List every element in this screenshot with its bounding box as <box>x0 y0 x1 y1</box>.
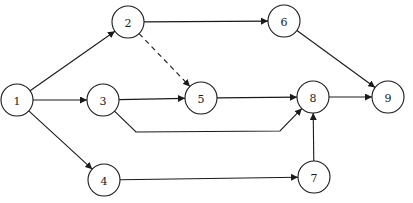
node-label: 7 <box>311 172 318 185</box>
node-label: 1 <box>14 95 21 108</box>
node-5: 5 <box>185 82 217 114</box>
node-2: 2 <box>112 6 144 38</box>
edge-7-to-8 <box>313 113 314 161</box>
edge-6-to-9 <box>297 30 375 87</box>
node-label: 9 <box>385 92 392 105</box>
node-label: 5 <box>198 93 205 106</box>
node-8: 8 <box>297 81 329 113</box>
node-label: 6 <box>281 16 288 29</box>
node-6: 6 <box>268 5 300 37</box>
node-3: 3 <box>87 84 119 116</box>
node-1: 1 <box>1 84 33 116</box>
edge-5-to-8 <box>217 97 297 98</box>
node-9: 9 <box>372 81 404 113</box>
edge-1-to-4 <box>29 111 92 169</box>
node-7: 7 <box>298 161 330 193</box>
node-label: 3 <box>100 95 107 108</box>
edge-2-to-5 <box>139 34 190 87</box>
node-label: 2 <box>125 17 132 30</box>
node-4: 4 <box>88 164 120 196</box>
edge-4-to-7 <box>120 177 298 180</box>
edge-3-to-5 <box>119 98 185 99</box>
edge-2-to-6 <box>144 21 268 22</box>
edge-1-to-2 <box>30 31 115 91</box>
node-label: 8 <box>310 92 317 105</box>
node-label: 4 <box>101 175 108 188</box>
network-diagram: 123456789 <box>0 0 413 203</box>
